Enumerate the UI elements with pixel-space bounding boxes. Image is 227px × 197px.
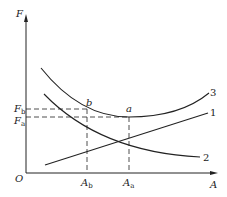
x-tick-ab: Ab [80,177,93,190]
y-axis-label: F [15,8,24,19]
curve-1-label: 1 [210,107,216,118]
point-a-label: a [126,103,132,114]
curve-2-label: 2 [203,152,209,163]
curve-3 [41,68,209,117]
point-b-label: b [86,97,92,108]
curve-2 [44,94,200,157]
x-tick-aa: Aa [122,177,134,190]
y-axis-arrow-icon [24,14,28,22]
x-axis-label: A [209,179,217,190]
cost-diagram: F A O Fb Fa Ab Aa b a 1 2 3 [0,0,227,197]
x-axis-arrow-icon [210,171,218,175]
curve-3-label: 3 [210,87,216,98]
curve-1 [45,113,208,165]
origin-label: O [15,173,23,184]
y-tick-fa: Fa [13,115,25,128]
